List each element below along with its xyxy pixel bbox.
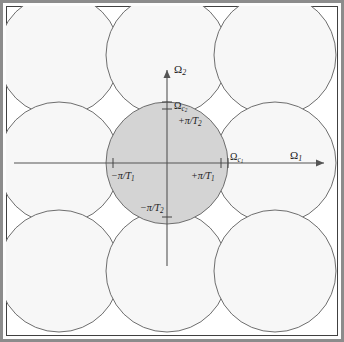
omega-c2-label: Ωc2 <box>174 101 187 114</box>
figure-root: Ω2 Ω1 Ωc2 Ωc1 +π/T2 −π/T2 −π/T1 +π/T1 <box>0 0 344 342</box>
replica-top-right <box>214 6 336 116</box>
replica-bottom-left <box>6 210 120 332</box>
replica-top-left <box>6 6 120 116</box>
replica-bottom-right <box>214 210 336 332</box>
tick-label-minus-pi-over-t2: −π/T2 <box>140 203 164 215</box>
omega1-axis-label: Ω1 <box>290 150 302 163</box>
tick-label-plus-pi-over-t1: +π/T1 <box>191 171 215 183</box>
omega2-axis-label: Ω2 <box>174 64 186 77</box>
omega-c1-label: Ωc1 <box>230 152 243 165</box>
tick-label-plus-pi-over-t2: +π/T2 <box>178 116 202 128</box>
spectrum-tiling-plot <box>6 6 338 336</box>
tick-label-minus-pi-over-t1: −π/T1 <box>111 171 135 183</box>
